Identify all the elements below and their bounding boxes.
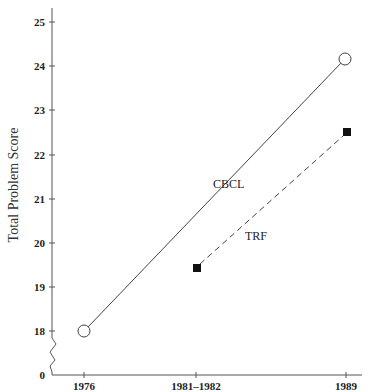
y-tick-label: 23 [34, 104, 46, 116]
chart: Total Problem Score 25 24 23 22 21 20 19… [0, 0, 371, 392]
y-tick-label: 0 [40, 369, 46, 381]
x-tick-label: 1989 [335, 380, 358, 392]
y-axis-title: Total Problem Score [6, 128, 21, 243]
y-tick-label: 20 [34, 237, 46, 249]
y-tick-label: 19 [34, 281, 46, 293]
trf-label: TRF [245, 229, 267, 243]
cbcl-label: CBCL [213, 177, 244, 191]
cbcl-line [88, 63, 341, 327]
x-tick-label: 1976 [73, 380, 96, 392]
y-axis-break [50, 338, 56, 375]
trf-marker-1989 [343, 128, 351, 136]
cbcl-marker-1989 [339, 53, 351, 65]
y-tick-label: 21 [34, 193, 45, 205]
y-tick-label: 25 [34, 16, 46, 28]
trf-line [200, 136, 343, 264]
x-tick-label: 1981–1982 [171, 380, 221, 392]
y-tick-label: 24 [34, 60, 46, 72]
cbcl-marker-1976 [78, 325, 90, 337]
y-tick-label: 22 [34, 149, 46, 161]
trf-marker-1981-1982 [193, 264, 201, 272]
y-tick-label: 18 [34, 325, 46, 337]
